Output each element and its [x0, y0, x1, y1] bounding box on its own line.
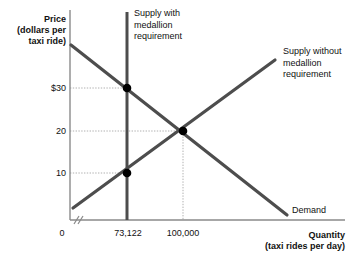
supply-without-medallion-label-line-3: requirement [283, 69, 342, 81]
marker-quota-price [123, 84, 132, 93]
y-axis-subtitle-line-1: (dollars per [0, 25, 66, 36]
y-axis-title: Price [0, 14, 66, 25]
y-tick-20: 20 [24, 126, 66, 136]
supply-without-medallion-label: Supply without medallion requirement [283, 46, 342, 81]
supply-with-medallion-label-line-1: Supply with [134, 8, 182, 20]
x-axis-subtitle: (taxi rides per day) [225, 241, 345, 252]
y-tick-30: $30 [24, 83, 66, 93]
x-axis-title: Quantity [240, 230, 345, 241]
origin-label: 0 [52, 228, 72, 238]
supply-with-medallion-label: Supply with medallion requirement [134, 8, 182, 43]
supply-without-medallion-label-line-2: medallion [283, 58, 342, 70]
demand-label: Demand [292, 205, 326, 217]
supply-without-medallion-curve [73, 60, 275, 208]
x-tick-73122: 73,122 [98, 228, 158, 238]
marker-quota-supply-cost [123, 169, 132, 178]
y-axis-subtitle-line-2: taxi ride) [0, 36, 66, 47]
y-tick-10: 10 [24, 168, 66, 178]
supply-with-medallion-label-line-3: requirement [134, 31, 182, 43]
supply-without-medallion-label-line-1: Supply without [283, 46, 342, 58]
supply-demand-chart: Price (dollars per taxi ride) $30 20 10 … [0, 0, 358, 263]
supply-with-medallion-label-line-2: medallion [134, 20, 182, 32]
marker-free-market-equilibrium [179, 127, 188, 136]
x-tick-100000: 100,000 [153, 228, 213, 238]
